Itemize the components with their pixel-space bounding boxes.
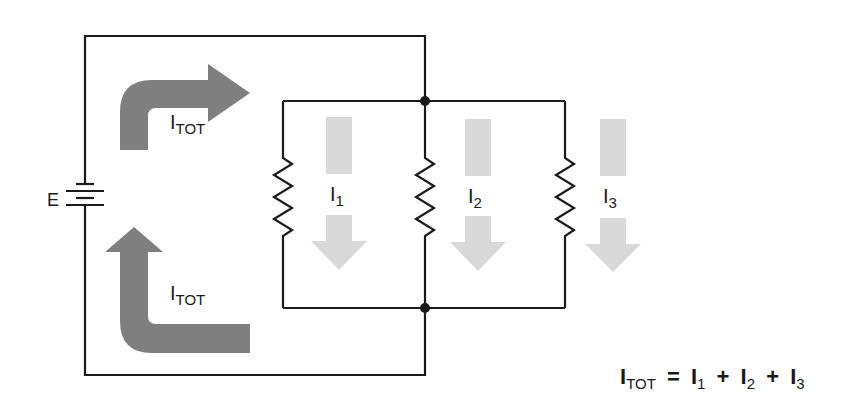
circuit-diagram: [0, 0, 867, 413]
kirchhoff-current-equation: ITOT = I1 + I2 + I3: [620, 364, 805, 390]
total-current-arrow-top: [120, 64, 250, 150]
total-current-label-top: ITOT: [170, 112, 205, 132]
branch-current-label-2: I2: [468, 186, 482, 206]
junction-dot-top: [420, 96, 430, 106]
total-current-label-bottom: ITOT: [170, 283, 205, 303]
battery-icon: [66, 184, 104, 205]
junction-dot-bottom: [420, 303, 430, 313]
branch-current-label-1: I1: [330, 184, 344, 204]
source-label: E: [47, 191, 59, 209]
branch-current-label-3: I3: [603, 186, 617, 206]
